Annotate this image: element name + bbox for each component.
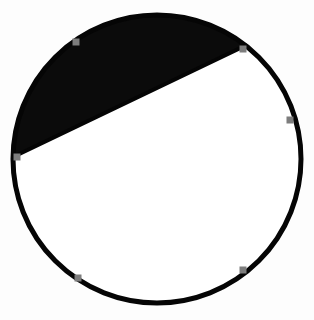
circle-segment-diagram — [0, 0, 314, 320]
point-marker-left — [14, 154, 21, 161]
point-marker-lower-right — [240, 267, 247, 274]
point-marker-lower-left — [75, 275, 82, 282]
point-marker-upper-right — [240, 46, 247, 53]
figure-container: Circle with shaded minor segment A black… — [0, 0, 314, 320]
point-marker-right — [287, 117, 294, 124]
point-marker-upper-left — [73, 39, 80, 46]
